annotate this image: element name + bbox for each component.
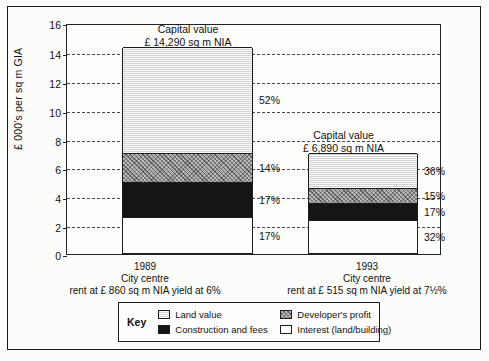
ytick-label-2: 2 — [55, 222, 61, 234]
legend-items: Land value Developer's profit Constructi… — [158, 307, 410, 337]
pct-construction-1989: 17% — [259, 194, 280, 206]
capital-value-label-1989: Capital value — [107, 23, 269, 36]
legend-label-developers-profit: Developer's profit — [297, 309, 371, 320]
legend-swatch-land-value-icon — [158, 310, 170, 319]
plot-area: 16 14 12 10 8 6 4 2 — [66, 24, 441, 255]
bar-segment-land-value-1993[interactable]: 36% — [309, 153, 417, 188]
ytick-label-14: 14 — [49, 49, 61, 61]
ytick-mark-16 — [63, 25, 67, 26]
legend-swatch-construction-icon — [158, 325, 170, 334]
ytick-mark-10 — [63, 113, 67, 114]
x-caption-year-1993: 1993 — [253, 261, 481, 273]
pct-construction-1993: 17% — [424, 206, 445, 218]
legend-title: Key — [127, 316, 146, 328]
ytick-mark-12 — [63, 84, 67, 85]
capital-value-annotation-1993: Capital value £ 6,890 sq m NIA — [262, 129, 425, 154]
ytick-label-16: 16 — [49, 19, 61, 31]
ytick-mark-6 — [63, 170, 67, 171]
bar-segment-land-value-1989[interactable]: 52% — [123, 47, 252, 155]
pct-profit-1993: 15% — [424, 190, 445, 202]
bar-segment-interest-1993[interactable]: 32% — [309, 221, 417, 253]
legend-item-construction-and-fees[interactable]: Construction and fees — [158, 324, 276, 335]
bar-segment-interest-1989[interactable]: 17% — [123, 218, 252, 253]
capital-value-label-1993: Capital value — [262, 129, 425, 142]
x-caption-1989: 1989 City centre rent at £ 860 sq m NIA … — [26, 261, 264, 297]
bar-segment-developers-profit-1993[interactable]: 15% — [309, 189, 417, 204]
ytick-mark-0 — [63, 256, 67, 257]
legend: Key Land value Developer's profit Constr… — [118, 302, 380, 342]
legend-item-land-value[interactable]: Land value — [158, 309, 276, 320]
ytick-mark-14 — [63, 55, 67, 56]
capital-value-annotation-1989: Capital value £ 14,290 sq m NIA — [107, 23, 269, 48]
legend-label-land-value: Land value — [175, 309, 221, 320]
legend-item-developers-profit[interactable]: Developer's profit — [280, 309, 410, 320]
x-caption-1993: 1993 City centre rent at £ 515 sq m NIA … — [253, 261, 481, 297]
bar-1993[interactable]: 36% 15% 17% 32% — [308, 154, 418, 254]
legend-swatch-interest-icon — [280, 325, 292, 334]
bar-segment-construction-1989[interactable]: 17% — [123, 183, 252, 218]
legend-label-interest: Interest (land/building) — [297, 324, 391, 335]
y-axis-title: £ 000's per sq m GIA — [12, 48, 24, 150]
pct-profit-1989: 14% — [259, 162, 280, 174]
x-caption-year-1989: 1989 — [26, 261, 264, 273]
x-caption-detail-1989: rent at £ 860 sq m NIA yield at 6% — [26, 285, 264, 297]
ytick-label-4: 4 — [55, 193, 61, 205]
ytick-mark-4 — [63, 199, 67, 200]
x-caption-location-1989: City centre — [26, 273, 264, 285]
legend-item-interest[interactable]: Interest (land/building) — [280, 324, 410, 335]
ytick-label-10: 10 — [49, 107, 61, 119]
capital-value-amount-1993: £ 6,890 sq m NIA — [262, 142, 425, 155]
pct-land-1989: 52% — [259, 94, 280, 106]
ytick-label-12: 12 — [49, 78, 61, 90]
legend-swatch-developers-profit-icon — [280, 310, 292, 319]
x-caption-location-1993: City centre — [253, 273, 481, 285]
ytick-label-6: 6 — [55, 164, 61, 176]
x-caption-detail-1993: rent at £ 515 sq m NIA yield at 7½% — [253, 285, 481, 297]
legend-label-construction-and-fees: Construction and fees — [175, 324, 267, 335]
ytick-mark-8 — [63, 142, 67, 143]
bar-segment-construction-1993[interactable]: 17% — [309, 204, 417, 221]
chart-figure: £ 000's per sq m GIA 16 14 12 10 8 6 — [0, 0, 489, 361]
bar-1989[interactable]: 52% 14% 17% 17% — [122, 48, 253, 254]
bar-segment-developers-profit-1989[interactable]: 14% — [123, 154, 252, 183]
pct-land-1993: 36% — [424, 165, 445, 177]
pct-interest-1989: 17% — [259, 230, 280, 242]
pct-interest-1993: 32% — [424, 231, 445, 243]
ytick-mark-2 — [63, 228, 67, 229]
ytick-label-8: 8 — [55, 136, 61, 148]
